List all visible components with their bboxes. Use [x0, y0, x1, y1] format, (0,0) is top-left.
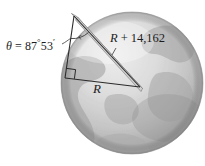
theta-symbol: θ — [6, 39, 12, 53]
hypotenuse-variable: R — [110, 31, 118, 45]
hypotenuse-operator: + — [121, 31, 128, 45]
theta-equals: = — [15, 39, 22, 53]
base-label: R — [93, 82, 101, 95]
theta-leader-line — [62, 39, 71, 45]
angle-theta-label: θ=87°53′ — [6, 38, 55, 52]
theta-degrees-value: 87 — [25, 39, 37, 53]
hypotenuse-value: 14,162 — [131, 31, 165, 45]
figure-container: θ=87°53′ R+14,162 R — [0, 0, 205, 166]
theta-minutes-value: 53 — [41, 39, 53, 53]
minute-sign-icon: ′ — [53, 37, 55, 47]
hypotenuse-label: R+14,162 — [110, 32, 165, 45]
geometry-figure-svg — [0, 0, 205, 166]
